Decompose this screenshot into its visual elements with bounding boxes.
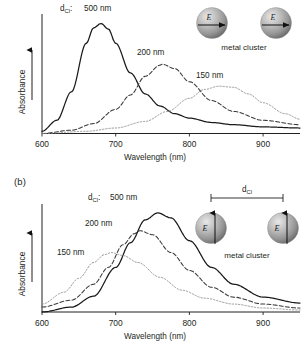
metal-cluster-sphere-left-icon (197, 8, 228, 39)
svg-text:dCl:: dCl: (88, 193, 100, 203)
panel-a-xtick-2: 800 (182, 139, 196, 149)
field-label-left: E (202, 224, 208, 233)
panel-b-label-200: 200 nm (85, 219, 112, 228)
panel-b-x-ticks: 600 700 800 900 (35, 312, 270, 328)
panel-b-cluster-diagram: dCl E E metal cluster (196, 185, 299, 260)
metal-cluster-sphere-left-icon (196, 213, 227, 244)
panel-b-x-axis-label: Wavelength (nm) (124, 332, 186, 341)
panel-a-x-axis-label: Wavelength (nm) (124, 153, 186, 162)
panel-b: Absorbance 600 700 800 900 Wavelength (n… (0, 170, 306, 352)
panel-a: Absorbance 600 700 800 900 Wavelength (n… (0, 0, 306, 176)
panel-a-y-axis-label: Absorbance (17, 69, 27, 114)
panel-b-xtick-2: 800 (182, 318, 196, 328)
figure-container: Absorbance 600 700 800 900 Wavelength (n… (0, 0, 306, 352)
panel-a-label-500: 500 nm (84, 4, 111, 13)
panel-a-annotation-500: dCl: 500 nm (60, 4, 111, 14)
panel-a-xtick-1: 700 (109, 139, 123, 149)
field-label-left: E (206, 13, 212, 22)
panel-a-xtick-0: 600 (35, 139, 49, 149)
panel-b-annotation-500: dCl: 500 nm (88, 193, 137, 203)
svg-text:dCl:: dCl: (60, 4, 72, 14)
metal-cluster-caption: metal cluster (221, 43, 267, 52)
panel-a-curves (42, 24, 300, 134)
curve-500-nm (42, 213, 300, 312)
curve-150-nm (42, 253, 300, 310)
metal-cluster-sphere-right-icon (261, 8, 292, 39)
distance-label: dCl (242, 185, 252, 195)
panel-a-cluster-diagram: E E metal cluster (197, 8, 292, 53)
panel-a-dcl-colon: : (70, 4, 72, 13)
panel-b-label: (b) (14, 176, 26, 187)
panel-b-xtick-1: 700 (109, 318, 123, 328)
panel-b-label-500: 500 nm (110, 193, 137, 202)
field-label-right: E (270, 13, 276, 22)
metal-cluster-sphere-right-icon (268, 213, 299, 244)
panel-a-xtick-3: 900 (256, 139, 270, 149)
curve-200-nm (42, 64, 300, 133)
panel-b-plot: Absorbance 600 700 800 900 Wavelength (n… (0, 170, 306, 352)
metal-cluster-caption: metal cluster (224, 251, 270, 260)
curve-500-nm (42, 24, 300, 132)
panel-b-y-axis-label: Absorbance (17, 251, 27, 296)
panel-b-xtick-0: 600 (35, 318, 49, 328)
panel-a-label-200: 200 nm (137, 48, 164, 57)
panel-a-label-150: 150 nm (196, 71, 223, 80)
panel-b-xtick-3: 900 (256, 318, 270, 328)
panel-a-x-ticks: 600 700 800 900 (35, 134, 270, 150)
panel-b-curves (42, 213, 300, 312)
panel-b-dcl-colon: : (98, 193, 100, 202)
panel-b-label-150: 150 nm (57, 248, 84, 257)
panel-a-plot: Absorbance 600 700 800 900 Wavelength (n… (0, 0, 306, 176)
field-label-right: E (274, 224, 280, 233)
